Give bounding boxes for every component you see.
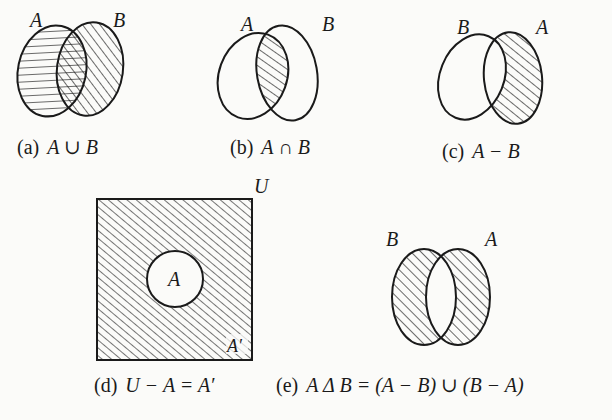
set-label-a: A [483, 228, 498, 250]
caption-expression: U − A = A′ [125, 374, 214, 396]
figure-c-difference: B A [426, 16, 549, 130]
set-label-a: A [166, 268, 181, 290]
set-label-a-complement: A′ [226, 336, 243, 356]
set-label-a: A [534, 16, 549, 38]
caption-expression: A ∩ B [261, 136, 310, 158]
caption-tag: (b) [230, 136, 253, 158]
caption-a: (a)A ∪ B [17, 137, 98, 157]
set-label-b: B [113, 9, 125, 31]
set-label-a: A [239, 13, 254, 35]
set-label-b: B [322, 13, 334, 35]
caption-c: (c)A − B [442, 141, 520, 161]
caption-d: (d)U − A = A′ [94, 375, 215, 395]
caption-tag: (e) [276, 374, 298, 396]
set-label-universe: U [254, 175, 270, 197]
caption-expression: A Δ B = (A − B) ∪ (B − A) [306, 374, 523, 396]
caption-expression: A − B [472, 140, 520, 162]
caption-tag: (c) [442, 140, 464, 162]
figure-e-symmetric-difference: B A [386, 228, 498, 345]
figure-b-intersection: A B [206, 13, 334, 129]
caption-expression: A ∪ B [47, 136, 98, 158]
set-label-a: A [28, 9, 43, 31]
set-label-b: B [457, 16, 469, 38]
caption-b: (b)A ∩ B [230, 137, 310, 157]
caption-tag: (d) [94, 374, 117, 396]
caption-e: (e)A Δ B = (A − B) ∪ (B − A) [276, 375, 524, 395]
figure-d-complement: A U A′ [97, 175, 270, 360]
set-label-b: B [386, 228, 398, 250]
venn-diagram-canvas: A B A B B A A U A′ [0, 0, 612, 420]
figure-a-union: A B [9, 9, 129, 123]
caption-tag: (a) [17, 136, 39, 158]
